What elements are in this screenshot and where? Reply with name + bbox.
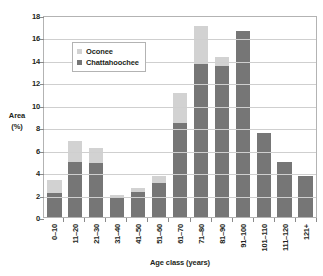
bar-slot [232,17,253,217]
x-label-cell: 31–40 [106,222,127,256]
x-label-cell: 0–10 [43,222,64,256]
x-label-cell: 51–60 [148,222,169,256]
y-axis-tick-labels: 181614121086420 [26,0,40,276]
bar-stack[interactable] [215,17,229,217]
y-tick-label: 12 [26,79,40,88]
bar-segment-oconee[interactable] [173,93,187,123]
y-tick-mark [40,174,44,175]
x-tick-label: 101–110 [260,224,269,251]
y-tick-mark [40,39,44,40]
x-label-cell: 11–20 [64,222,85,256]
y-tick-label: 8 [26,124,40,133]
x-label-cell: 81–90 [212,222,233,256]
y-tick-label: 4 [26,169,40,178]
y-tick-label: 18 [26,12,40,21]
x-label-cell: 111–120 [275,222,296,256]
y-tick-mark [40,152,44,153]
legend-item[interactable]: Chattahoochee [77,57,139,68]
y-tick-mark [40,84,44,85]
bar-segment-chattahoochee[interactable] [68,162,82,217]
x-tick-label: 51–60 [154,224,163,244]
bar-stack[interactable] [194,17,208,217]
legend-label: Oconee [86,47,113,56]
bar-segment-chattahoochee[interactable] [173,123,187,217]
y-tick-label: 2 [26,191,40,200]
bar-stack[interactable] [173,17,187,217]
x-tick-label: 21–30 [91,224,100,244]
bar-segment-chattahoochee[interactable] [194,64,208,217]
gridline [44,39,316,40]
legend-label: Chattahoochee [86,58,139,67]
bar-stack[interactable] [236,17,250,217]
bar-slot [295,17,316,217]
y-tick-mark [40,129,44,130]
y-tick-mark [40,17,44,18]
bar-segment-chattahoochee[interactable] [277,162,291,217]
y-tick-label: 0 [26,214,40,223]
legend-swatch-icon [77,49,82,54]
bar-stack[interactable] [298,17,312,217]
gridline [44,174,316,175]
x-axis-title: Age class (years) [43,258,317,267]
x-tick-label: 31–40 [112,224,121,244]
x-label-cell: 91–100 [233,222,254,256]
x-tick-label: 121+ [302,224,311,240]
x-tick-label: 81–90 [218,224,227,244]
legend-swatch-icon [77,60,82,65]
bar-segment-chattahoochee[interactable] [110,198,124,217]
bar-segment-oconee[interactable] [89,148,103,163]
x-tick-label: 71–80 [197,224,206,244]
bar-segment-oconee[interactable] [47,180,61,193]
bar-stack[interactable] [277,17,291,217]
x-tick-label: 11–20 [70,224,79,243]
x-label-cell: 121+ [296,222,317,256]
bar-slot [190,17,211,217]
x-label-cell: 41–50 [127,222,148,256]
x-tick-label: 91–100 [239,224,248,248]
bar-slot [44,17,65,217]
gridline [44,129,316,130]
legend-item[interactable]: Oconee [77,46,139,57]
bar-segment-oconee[interactable] [152,176,166,184]
bar-segment-chattahoochee[interactable] [152,183,166,217]
y-tick-mark [40,107,44,108]
bar-stack[interactable] [47,17,61,217]
y-tick-label: 14 [26,56,40,65]
bar-segment-chattahoochee[interactable] [215,66,229,217]
x-tick-label: 61–70 [176,224,185,244]
gridline [44,107,316,108]
x-label-cell: 71–80 [191,222,212,256]
chart-legend: OconeeChattahoochee [72,42,146,72]
gridline [44,197,316,198]
x-tick-label: 0–10 [49,224,58,240]
y-tick-label: 10 [26,101,40,110]
y-tick-label: 16 [26,34,40,43]
x-tick-label: 41–50 [133,224,142,244]
y-tick-mark [40,62,44,63]
bar-slot [253,17,274,217]
bar-stack[interactable] [257,17,271,217]
x-tick-label: 111–120 [281,224,290,251]
bar-stack[interactable] [152,17,166,217]
bar-slot [211,17,232,217]
bar-segment-oconee[interactable] [194,26,208,64]
bar-segment-chattahoochee[interactable] [89,163,103,217]
bar-slot [149,17,170,217]
y-tick-mark [40,197,44,198]
bar-slot [274,17,295,217]
y-tick-label: 6 [26,146,40,155]
x-label-cell: 101–110 [254,222,275,256]
gridline [44,152,316,153]
gridline [44,84,316,85]
x-label-cell: 61–70 [169,222,190,256]
bar-slot [170,17,191,217]
bar-segment-chattahoochee[interactable] [236,31,250,217]
x-label-cell: 21–30 [85,222,106,256]
bar-chart: Area (%) 181614121086420 0–1011–2021–303… [0,0,323,276]
x-axis-tick-labels: 0–1011–2021–3031–4041–5051–6061–7071–808… [43,222,317,256]
